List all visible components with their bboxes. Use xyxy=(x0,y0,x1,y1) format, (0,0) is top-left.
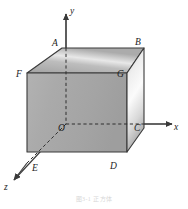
axis-label-y: y xyxy=(70,7,74,17)
vertex-label-C: C xyxy=(134,124,140,134)
axis-label-x: x xyxy=(174,123,178,133)
vertex-label-D: D xyxy=(110,162,117,172)
vertex-label-O: O xyxy=(58,124,65,134)
cube-diagram xyxy=(0,0,188,209)
front-face xyxy=(27,73,127,152)
z-axis-tip xyxy=(14,163,27,180)
top-face xyxy=(27,48,144,73)
vertex-label-G: G xyxy=(117,70,124,80)
cube-faces xyxy=(27,48,144,152)
vertex-label-B: B xyxy=(135,38,141,48)
vertex-label-E: E xyxy=(32,164,38,174)
figure-container: A B C D E F G O x y z 图3-1 正方体 xyxy=(0,0,188,209)
vertex-label-A: A xyxy=(52,39,58,49)
axis-label-z: z xyxy=(4,183,8,193)
figure-caption: 图3-1 正方体 xyxy=(0,196,188,202)
vertex-label-F: F xyxy=(16,70,22,80)
